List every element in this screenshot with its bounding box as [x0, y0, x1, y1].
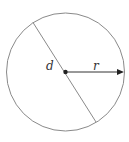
- radius-label: r: [93, 59, 100, 73]
- arrowhead-icon: [117, 69, 124, 75]
- circle-diagram: d r: [0, 0, 129, 142]
- center-point: [63, 70, 67, 74]
- diameter-label: d: [46, 59, 54, 73]
